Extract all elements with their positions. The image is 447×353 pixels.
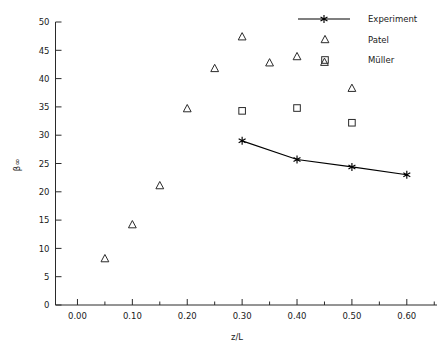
data-point-marker [321, 35, 329, 42]
legend-label: Müller [368, 55, 395, 65]
series-line [242, 141, 407, 175]
data-point-marker [266, 59, 274, 66]
plot-canvas: 0.000.100.200.300.400.500.60 05101520253… [0, 0, 447, 353]
data-point-marker [238, 33, 246, 40]
x-tick-label: 0.30 [233, 311, 252, 321]
data-point-marker [348, 84, 356, 91]
x-tick-label: 0.60 [397, 311, 416, 321]
chart-legend: ExperimentPatelMüller [298, 14, 418, 65]
data-point-marker [101, 254, 109, 261]
y-tick-label: 45 [39, 46, 50, 56]
x-axis-tick-labels: 0.000.100.200.300.400.500.60 [68, 311, 416, 321]
y-tick-label: 5 [44, 272, 49, 282]
y-tick-label: 15 [39, 215, 50, 225]
data-point-marker [183, 104, 191, 111]
x-tick-label: 0.00 [68, 311, 87, 321]
series-patel [101, 33, 356, 262]
y-tick-label: 20 [39, 187, 50, 197]
data-point-marker [294, 105, 301, 112]
data-point-marker [239, 137, 246, 145]
data-point-marker [211, 64, 219, 71]
y-tick-label: 40 [39, 74, 50, 84]
data-series-layer [101, 33, 410, 262]
legend-item-m-ller[interactable]: Müller [322, 55, 395, 65]
y-tick-label: 30 [39, 130, 50, 140]
y-tick-label: 25 [39, 159, 50, 169]
x-axis-ticks [77, 299, 434, 305]
y-axis-tick-labels: 05101520253035404550 [39, 17, 50, 310]
y-axis-ticks [56, 22, 62, 305]
series-m-ller [239, 105, 355, 126]
y-tick-label: 35 [39, 102, 50, 112]
legend-label: Experiment [368, 14, 418, 24]
x-tick-label: 0.40 [288, 311, 307, 321]
data-point-marker [293, 52, 301, 59]
x-tick-label: 0.10 [123, 311, 142, 321]
x-tick-label: 0.50 [342, 311, 361, 321]
y-tick-label: 0 [44, 300, 49, 310]
legend-label: Patel [368, 35, 389, 45]
x-axis-title: z/L [231, 332, 243, 342]
y-tick-label: 50 [39, 17, 50, 27]
data-point-marker [156, 181, 164, 188]
data-point-marker [128, 221, 136, 228]
x-tick-label: 0.20 [178, 311, 197, 321]
y-tick-label: 10 [39, 244, 50, 254]
y-axis-title: β∞ [12, 159, 22, 172]
legend-item-patel[interactable]: Patel [321, 35, 389, 45]
legend-item-experiment[interactable]: Experiment [298, 14, 418, 24]
series-experiment [239, 137, 411, 179]
data-point-marker [349, 119, 356, 126]
chart-figure: 0.000.100.200.300.400.500.60 05101520253… [0, 0, 447, 353]
data-point-marker [239, 108, 246, 115]
